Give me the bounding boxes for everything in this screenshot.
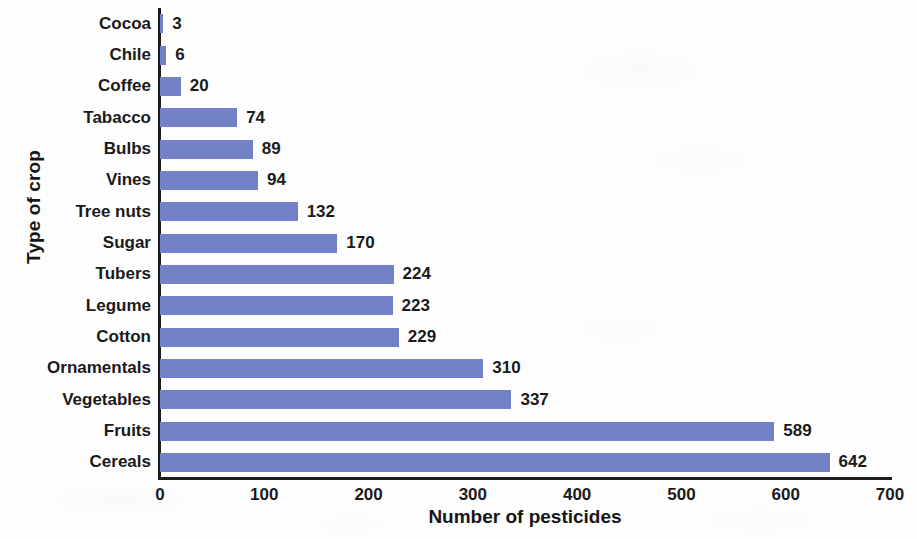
bar-row: Vegetables337 — [160, 390, 890, 409]
category-label: Tubers — [96, 264, 151, 284]
bar-chart: Type of crop Cocoa3Chile6Coffee20Tabacco… — [0, 0, 917, 539]
bar-value-label: 310 — [492, 358, 520, 378]
bar-value-label: 132 — [307, 202, 335, 222]
category-label: Ornamentals — [47, 358, 151, 378]
category-label: Tree nuts — [75, 202, 151, 222]
bar — [160, 265, 394, 284]
category-label: Vegetables — [62, 390, 151, 410]
bar-value-label: 589 — [783, 421, 811, 441]
bar-row: Sugar170 — [160, 234, 890, 253]
x-axis-tick-label: 0 — [155, 485, 164, 505]
bar-row: Tubers224 — [160, 265, 890, 284]
category-label: Vines — [106, 170, 151, 190]
bar — [160, 171, 258, 190]
bar-row: Ornamentals310 — [160, 359, 890, 378]
bar-row: Coffee20 — [160, 77, 890, 96]
bar — [160, 77, 181, 96]
bar-row: Cocoa3 — [160, 14, 890, 33]
bar — [160, 14, 163, 33]
bar-row: Chile6 — [160, 46, 890, 65]
bar — [160, 328, 399, 347]
bar — [160, 296, 393, 315]
category-label: Sugar — [103, 233, 151, 253]
bar-row: Vines94 — [160, 171, 890, 190]
bar — [160, 108, 237, 127]
bar-value-label: 20 — [190, 76, 209, 96]
category-label: Cotton — [96, 327, 151, 347]
x-axis-tick-label: 500 — [667, 485, 695, 505]
bar — [160, 359, 483, 378]
bar-row: Cereals642 — [160, 453, 890, 472]
bar — [160, 46, 166, 65]
bar — [160, 390, 511, 409]
y-axis-title: Type of crop — [23, 77, 45, 337]
x-axis-tick-label: 100 — [250, 485, 278, 505]
x-axis-tick-label: 700 — [876, 485, 904, 505]
bar-value-label: 94 — [267, 170, 286, 190]
bar-row: Bulbs89 — [160, 140, 890, 159]
bar — [160, 453, 830, 472]
x-axis-tick-label: 600 — [772, 485, 800, 505]
bar — [160, 422, 774, 441]
bar-value-label: 3 — [172, 14, 181, 34]
bar-value-label: 170 — [346, 233, 374, 253]
x-axis-tick-label: 300 — [459, 485, 487, 505]
x-axis-line — [158, 477, 892, 480]
bar-value-label: 89 — [262, 139, 281, 159]
bar-row: Legume223 — [160, 296, 890, 315]
plot-area: Cocoa3Chile6Coffee20Tabacco74Bulbs89Vine… — [160, 8, 890, 478]
category-label: Fruits — [104, 421, 151, 441]
bar-value-label: 337 — [520, 390, 548, 410]
category-label: Legume — [86, 296, 151, 316]
bar-row: Tree nuts132 — [160, 202, 890, 221]
category-label: Coffee — [98, 76, 151, 96]
bar-value-label: 223 — [402, 296, 430, 316]
category-label: Chile — [109, 45, 151, 65]
category-label: Cocoa — [99, 14, 151, 34]
bar-value-label: 74 — [246, 108, 265, 128]
bar-value-label: 229 — [408, 327, 436, 347]
x-axis-title: Number of pesticides — [160, 506, 890, 528]
x-axis-tick-label: 400 — [563, 485, 591, 505]
x-axis-tick-label: 200 — [354, 485, 382, 505]
category-label: Tabacco — [83, 108, 151, 128]
category-label: Bulbs — [104, 139, 151, 159]
bar — [160, 140, 253, 159]
bar-value-label: 642 — [839, 452, 867, 472]
bar-row: Fruits589 — [160, 422, 890, 441]
bar-row: Tabacco74 — [160, 108, 890, 127]
category-label: Cereals — [90, 452, 151, 472]
bar-row: Cotton229 — [160, 328, 890, 347]
bar — [160, 202, 298, 221]
bar — [160, 234, 337, 253]
bar-value-label: 6 — [175, 45, 184, 65]
bar-value-label: 224 — [403, 264, 431, 284]
